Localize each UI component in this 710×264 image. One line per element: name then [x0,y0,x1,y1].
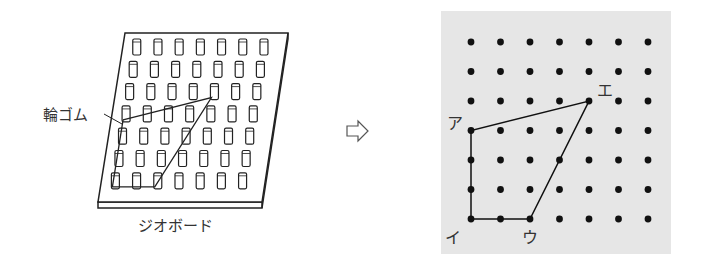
grid-dot [615,157,622,164]
grid-dot [556,216,563,223]
grid-dot [497,216,504,223]
point-label: ア [447,114,463,133]
grid-dot [615,216,622,223]
grid-dot [586,98,593,105]
grid-dot [497,186,504,193]
grid-dot [527,216,534,223]
peg [147,84,155,100]
grid-dot [556,68,563,75]
peg [150,61,158,77]
grid-dot [527,127,534,134]
point-label: エ [597,81,613,100]
grid-dot [615,98,622,105]
grid-dot [615,68,622,75]
grid-dot [556,157,563,164]
peg [214,61,222,77]
grid-dot [586,216,593,223]
grid-dot [497,157,504,164]
grid-dot [645,216,652,223]
dot-grid: アイウエ [441,11,671,254]
peg [246,128,254,144]
peg [239,39,247,55]
point-label: ウ [522,228,538,247]
peg [168,84,176,100]
peg [239,173,247,189]
grid-dot [645,127,652,134]
point-label: イ [445,228,461,247]
peg [175,39,183,55]
grid-dot [615,39,622,46]
grid-dot [645,39,652,46]
grid-dot [615,127,622,134]
grid-dot [645,186,652,193]
peg [218,39,226,55]
grid-dot [586,157,593,164]
grid-dot [586,39,593,46]
grid-dot [645,157,652,164]
peg [207,106,215,122]
grid-dot [468,127,475,134]
grid-dot [468,68,475,75]
peg [203,128,211,144]
grid-dot [468,186,475,193]
peg [136,151,144,167]
peg [133,39,141,55]
board-side [98,202,262,208]
peg [186,106,194,122]
grid-dot [586,186,593,193]
grid-dot [586,127,593,134]
peg [161,128,169,144]
grid-dot [645,68,652,75]
peg [129,61,137,77]
peg [200,151,208,167]
grid-dot [556,127,563,134]
peg [256,61,264,77]
grid-dot [497,98,504,105]
peg [253,84,261,100]
peg [126,84,134,100]
right-arrow-icon [347,121,368,141]
grid-dot [645,98,652,105]
grid-dot [468,216,475,223]
peg [225,128,233,144]
peg [196,39,204,55]
grid-dot [497,127,504,134]
peg [235,61,243,77]
geoboard: 輪ゴム ジオボード [43,33,288,235]
peg [249,106,257,122]
dot-grid-background [441,11,671,254]
peg [154,39,162,55]
grid-dot [556,186,563,193]
peg [175,173,183,189]
grid-dot [527,157,534,164]
peg [172,61,180,77]
peg [260,39,268,55]
grid-dot [527,39,534,46]
peg [196,173,204,189]
peg [228,106,236,122]
grid-dot [556,39,563,46]
peg [157,151,165,167]
peg [217,173,225,189]
grid-dot [468,98,475,105]
geoboard-caption: ジオボード [138,217,213,235]
grid-dot [556,98,563,105]
grid-dot [468,39,475,46]
grid-dot [586,68,593,75]
peg [140,128,148,144]
peg [221,151,229,167]
peg [242,151,250,167]
grid-dot [527,68,534,75]
grid-dot [527,98,534,105]
rubber-band-label: 輪ゴム [43,106,88,124]
grid-dot [497,39,504,46]
peg [179,151,187,167]
grid-dot [497,68,504,75]
peg [189,84,197,100]
peg [193,61,201,77]
grid-dot [527,186,534,193]
grid-dot [615,186,622,193]
figure: 輪ゴム ジオボード アイウエ [0,0,710,264]
peg [232,84,240,100]
grid-dot [468,157,475,164]
